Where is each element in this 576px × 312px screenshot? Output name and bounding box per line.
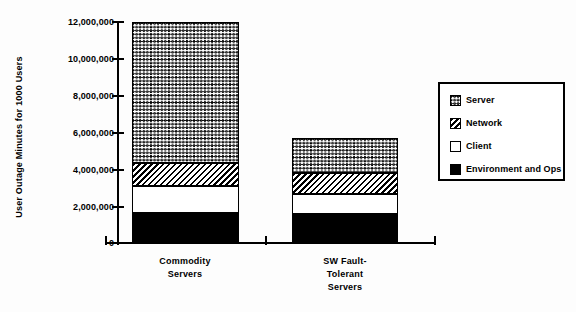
- x-category-label-line: Tolerant: [285, 268, 405, 281]
- y-axis-tick: [112, 169, 124, 171]
- y-axis-tick: [112, 132, 124, 134]
- y-tick-label: 8,000,000: [4, 92, 114, 101]
- y-axis-tick: [112, 58, 124, 60]
- legend-swatch-environment-and-ops-icon: [450, 164, 461, 175]
- legend-label: Environment and Ops: [466, 164, 561, 174]
- legend-item-client: Client: [450, 140, 492, 152]
- y-tick-label: 0: [4, 239, 114, 248]
- legend-item-environment-and-ops: Environment and Ops: [450, 163, 561, 175]
- x-axis-tick: [105, 236, 107, 245]
- legend-item-network: Network: [450, 117, 502, 129]
- bar-segment-server: [292, 138, 398, 173]
- bar-segment-server: [132, 22, 239, 163]
- legend-swatch-client-icon: [450, 141, 461, 152]
- x-category-label-line: Servers: [285, 281, 405, 294]
- y-axis-tick: [112, 95, 124, 97]
- bar-segment-environment-and-ops: [292, 214, 398, 243]
- legend-label: Client: [466, 141, 492, 151]
- legend-item-server: Server: [450, 94, 495, 106]
- legend-swatch-network-icon: [450, 118, 461, 129]
- x-category-label-line: Servers: [125, 268, 245, 281]
- y-tick-label: 2,000,000: [4, 203, 114, 212]
- x-category-label-sw-fault-tolerant-servers: SW Fault- Tolerant Servers: [285, 255, 405, 294]
- bar-segment-network: [132, 163, 239, 186]
- y-axis-tick: [112, 21, 124, 23]
- bar-sw-fault-tolerant-servers: [292, 138, 398, 243]
- bar-segment-client: [132, 186, 239, 213]
- x-category-label-commodity-servers: Commodity Servers: [125, 255, 245, 281]
- y-tick-label: 12,000,000: [4, 18, 114, 27]
- y-axis-tick: [112, 242, 124, 244]
- y-tick-label: 6,000,000: [4, 129, 114, 138]
- x-category-label-line: Commodity: [125, 255, 245, 268]
- stacked-bar-chart: User Outage Minutes for 1000 Users 12,00…: [0, 0, 576, 312]
- legend: Server Network Client Environment and Op…: [438, 82, 565, 181]
- x-axis-tick: [265, 236, 267, 245]
- x-category-label-line: SW Fault-: [285, 255, 405, 268]
- legend-label: Network: [466, 118, 502, 128]
- y-tick-label: 10,000,000: [4, 55, 114, 64]
- y-tick-label: 4,000,000: [4, 166, 114, 175]
- legend-swatch-server-icon: [450, 95, 461, 106]
- x-axis-tick: [434, 236, 436, 245]
- bar-commodity-servers: [132, 22, 239, 243]
- legend-label: Server: [466, 95, 495, 105]
- y-axis-tick: [112, 206, 124, 208]
- bar-segment-network: [292, 173, 398, 194]
- bar-segment-client: [292, 194, 398, 214]
- bar-segment-environment-and-ops: [132, 213, 239, 243]
